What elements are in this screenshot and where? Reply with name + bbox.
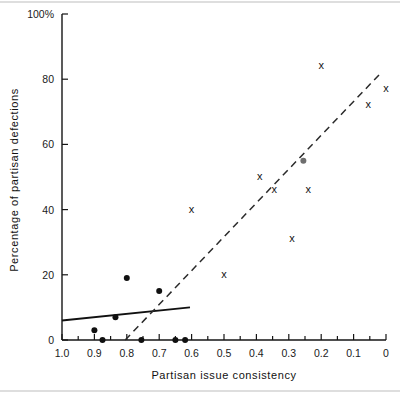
data-point-dot [91,327,97,333]
data-point-x-marker: x [221,268,227,280]
chart-container: 100%806040200 1.00.90.80.70.60.50.40.30.… [0,0,400,395]
data-point-x-marker: x [257,170,263,182]
data-point-dot [100,337,106,343]
data-point-x-marker: x [271,183,277,195]
data-point-x-marker: x [365,98,371,110]
x-tick-label: 0.4 [249,347,264,359]
x-tick-label: 0.7 [152,347,167,359]
y-tick-label: 100% [27,8,54,20]
y-tick-label: 0 [48,334,54,346]
fit-lines-group [62,73,381,340]
data-point-x-marker: x [289,232,295,244]
x-tick-label: 0.8 [119,347,134,359]
axes [62,14,386,340]
x-axis-ticks [62,334,386,340]
y-axis-tick-labels: 100%806040200 [27,8,54,346]
data-point-dot [300,158,306,164]
dashed-fit-line [125,73,381,340]
data-point-x-marker: x [305,183,311,195]
data-point-dot [156,288,162,294]
x-tick-label: 0.6 [184,347,199,359]
y-tick-label: 20 [42,269,54,281]
y-axis-title: Percentage of partisan defections [8,88,20,272]
x-tick-label: 0.3 [281,347,296,359]
data-point-dot [172,337,178,343]
data-point-x-marker: x [189,203,195,215]
y-tick-label: 60 [42,138,54,150]
x-tick-label: 1.0 [55,347,70,359]
data-point-dot [124,275,130,281]
data-point-dot [138,337,144,343]
y-tick-label: 40 [42,204,54,216]
x-tick-label: 0 [383,347,389,359]
y-tick-label: 80 [42,73,54,85]
data-point-x-marker: x [383,82,389,94]
x-tick-label: 0.2 [314,347,329,359]
data-point-dot [112,314,118,320]
scatter-plot: 100%806040200 1.00.90.80.70.60.50.40.30.… [0,0,400,395]
data-points-group: xxxxxxxxx [91,59,389,343]
x-axis-title: Partisan issue consistency [151,369,296,381]
y-axis-ticks [62,14,68,340]
data-point-x-marker: x [318,59,324,71]
x-tick-label: 0.1 [346,347,361,359]
x-tick-label: 0.9 [87,347,102,359]
x-axis-tick-labels: 1.00.90.80.70.60.50.40.30.20.10 [55,347,389,359]
data-point-dot [182,337,188,343]
x-tick-label: 0.5 [217,347,232,359]
solid-fit-line [62,307,190,320]
